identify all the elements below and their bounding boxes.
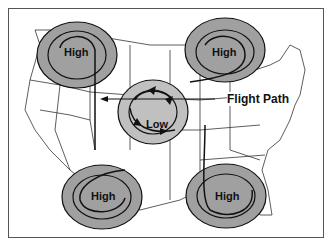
label-high-nw: High xyxy=(64,46,88,58)
label-high-se: High xyxy=(215,190,239,202)
label-high-sw: High xyxy=(91,190,115,202)
label-flight-path: Flight Path xyxy=(227,92,289,106)
high-pressure-se xyxy=(186,125,266,228)
label-low: Low xyxy=(146,118,168,130)
low-pressure-center xyxy=(118,80,188,144)
high-pressure-nw xyxy=(37,22,117,150)
label-high-ne: High xyxy=(212,46,236,58)
